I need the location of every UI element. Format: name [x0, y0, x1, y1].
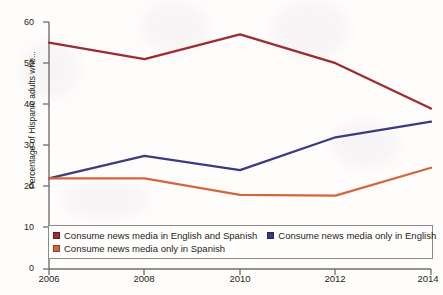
legend-swatch-icon — [53, 245, 60, 252]
x-tick-2014: 2014 — [408, 274, 443, 284]
chart-container: Percentage of Hispanic adults who... 60 … — [0, 0, 443, 295]
x-tick-2008: 2008 — [124, 274, 164, 284]
legend-swatch-icon — [53, 232, 60, 239]
legend-item-only-spanish[interactable]: Consume news media only in Spanish — [53, 242, 225, 255]
legend-row-2: Consume news media only in Spanish — [53, 242, 428, 255]
legend-swatch-icon — [267, 232, 274, 239]
legend-label: Consume news media only in English — [278, 229, 436, 242]
x-tick-2010: 2010 — [220, 274, 260, 284]
legend-label: Consume news media in English and Spanis… — [64, 229, 257, 242]
line-series-only-spanish — [49, 168, 431, 196]
line-series-only-english — [49, 122, 431, 179]
x-tick-2012: 2012 — [315, 274, 355, 284]
legend-label: Consume news media only in Spanish — [64, 242, 225, 255]
chart-legend: Consume news media in English and Spanis… — [48, 225, 433, 259]
legend-row-1: Consume news media in English and Spanis… — [53, 229, 428, 242]
legend-item-english-and-spanish[interactable]: Consume news media in English and Spanis… — [53, 229, 257, 242]
x-tick-2006: 2006 — [29, 274, 69, 284]
legend-item-only-english[interactable]: Consume news media only in English — [267, 229, 436, 242]
line-series-english-and-spanish — [49, 34, 431, 108]
